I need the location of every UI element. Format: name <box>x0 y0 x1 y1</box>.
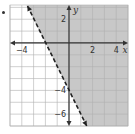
y-tick-label: −4 <box>54 86 66 95</box>
x-tick-label: 4 <box>114 46 119 55</box>
x-tick-label: −4 <box>16 46 28 55</box>
inequality-graph: −4242−4−6xy <box>0 0 135 134</box>
y-tick-label: −6 <box>54 110 66 119</box>
y-tick-label: 2 <box>61 15 66 24</box>
x-tick-label: 2 <box>90 46 95 55</box>
x-axis-label: x <box>122 45 127 55</box>
y-axis-label: y <box>72 5 79 15</box>
